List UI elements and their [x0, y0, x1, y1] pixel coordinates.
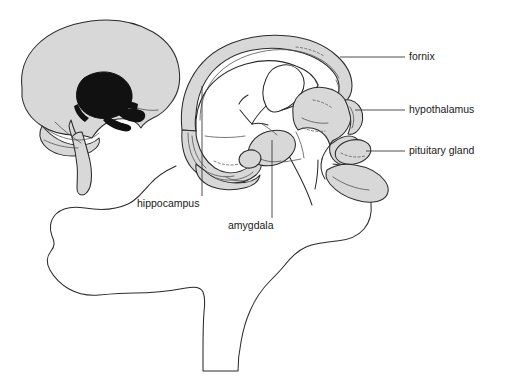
- hippocampal-commissure-line: [205, 136, 245, 138]
- inset-brainstem-lower: [72, 132, 92, 195]
- limbic-system-figure: fornix hypothalamus pituitary gland hipp…: [0, 0, 505, 386]
- cerebrum-inner-fold-2: [315, 160, 318, 189]
- label-fornix: fornix: [409, 50, 435, 62]
- label-amygdala: amygdala: [228, 219, 274, 231]
- brain-diagram-svg: fornix hypothalamus pituitary gland hipp…: [0, 0, 505, 386]
- label-pituitary-gland: pituitary gland: [409, 144, 475, 156]
- cerebrum-outline-path: [47, 164, 371, 371]
- label-hypothalamus: hypothalamus: [409, 103, 474, 115]
- thalamus-stalk: [252, 106, 266, 124]
- cerebrum-inner-fold: [286, 150, 312, 205]
- hypothalamus-mass: [293, 87, 351, 145]
- hippocampus-dash-detail: [214, 161, 239, 165]
- thalamus-base: [252, 123, 268, 125]
- limbic-system-detail: [181, 35, 388, 202]
- temporal-pole-lobe: [326, 164, 388, 202]
- inset-limbic-tail-b: [118, 109, 145, 123]
- stalk-connector: [322, 145, 330, 159]
- sagittal-brain-inset: [22, 20, 180, 195]
- midbrain-line: [296, 132, 304, 158]
- label-hippocampus: hippocampus: [137, 197, 199, 209]
- septum-line: [240, 110, 252, 124]
- hypothalamus-temporal-connector: [321, 159, 325, 179]
- septum-line-2: [239, 95, 248, 104]
